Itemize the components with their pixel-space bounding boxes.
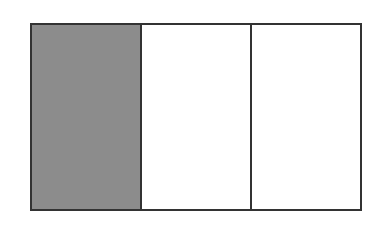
unshaded-part-2: [140, 25, 250, 209]
unshaded-part-3: [250, 25, 360, 209]
shaded-part-1: [32, 25, 140, 209]
fraction-rectangle: [30, 23, 362, 211]
